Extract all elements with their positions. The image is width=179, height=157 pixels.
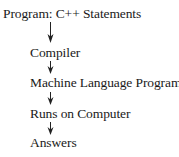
arrow-down-icon — [47, 122, 54, 135]
node-answers: Answers — [30, 136, 77, 150]
node-program: Program: C++ Statements — [3, 7, 141, 21]
arrow-down-icon — [47, 22, 54, 43]
arrow-down-icon — [47, 61, 54, 74]
node-machine-language-program: Machine Language Program — [30, 76, 179, 90]
node-runs-on-computer: Runs on Computer — [30, 107, 130, 121]
node-compiler: Compiler — [30, 46, 80, 60]
arrow-down-icon — [47, 92, 54, 105]
